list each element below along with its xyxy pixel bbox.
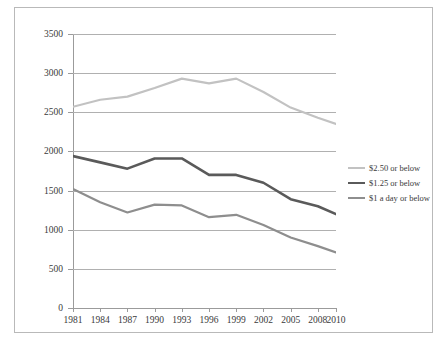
x-tick-mark (155, 308, 156, 312)
x-tick-mark (236, 308, 237, 312)
y-tick-label: 1000 (21, 225, 63, 235)
y-tick-label: 3500 (21, 29, 63, 39)
x-axis-line (73, 308, 337, 309)
x-tick-mark (291, 308, 292, 312)
y-tick-label: 0 (21, 303, 63, 313)
legend-item[interactable]: $1 a day or below (348, 190, 444, 205)
chart-legend: $2.50 or below$1.25 or below$1 a day or … (348, 160, 444, 205)
legend-color-swatch (348, 197, 365, 199)
x-tick-mark (318, 308, 319, 312)
y-tick-label: 1500 (21, 186, 63, 196)
series-lines (73, 34, 336, 308)
legend-item-label: $1.25 or below (369, 178, 420, 188)
x-tick-label: 2010 (319, 315, 353, 326)
legend-item[interactable]: $2.50 or below (348, 160, 444, 175)
x-tick-mark (127, 308, 128, 312)
y-tick-label: 3000 (21, 68, 63, 78)
y-tick-label: 500 (21, 264, 63, 274)
chart-figure: 0500100015002000250030003500 19811984198… (0, 0, 448, 347)
series-line (73, 189, 336, 252)
series-line (73, 79, 336, 124)
legend-item[interactable]: $1.25 or below (348, 175, 444, 190)
series-line (73, 156, 336, 214)
y-tick-label: 2000 (21, 146, 63, 156)
x-tick-mark (263, 308, 264, 312)
chart-frame: 0500100015002000250030003500 19811984198… (14, 7, 433, 333)
legend-item-label: $1 a day or below (369, 193, 430, 203)
x-tick-mark (100, 308, 101, 312)
legend-item-label: $2.50 or below (369, 163, 420, 173)
x-tick-mark (73, 308, 74, 312)
x-tick-mark (209, 308, 210, 312)
x-tick-mark (336, 308, 337, 312)
y-tick-label: 2500 (21, 107, 63, 117)
legend-color-swatch (348, 167, 365, 169)
x-tick-mark (182, 308, 183, 312)
legend-color-swatch (348, 182, 365, 184)
